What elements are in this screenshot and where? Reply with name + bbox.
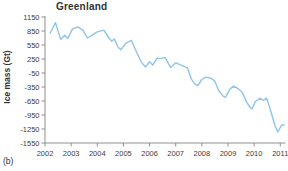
x-tick-label: 2006 — [141, 149, 158, 158]
y-tick-label: -350 — [24, 83, 39, 92]
y-tick-label: -1250 — [20, 125, 39, 134]
panel-caption: (b) — [3, 156, 13, 166]
y-tick-label: -650 — [24, 97, 39, 106]
x-tick-label: 2004 — [89, 149, 106, 158]
ice-mass-chart: 1150850550250-50-350-650-950-1250-155020… — [0, 0, 288, 171]
y-tick-label: 550 — [27, 41, 40, 50]
y-tick-label: 250 — [27, 55, 40, 64]
y-tick-label: -1550 — [20, 139, 39, 148]
y-tick-label: -950 — [24, 111, 39, 120]
x-tick-label: 2009 — [220, 149, 237, 158]
x-tick-label: 2010 — [246, 149, 263, 158]
chart-title: Greenland — [56, 1, 107, 12]
y-tick-label: 850 — [27, 27, 40, 36]
y-tick-label: -50 — [29, 69, 40, 78]
x-tick-label: 2008 — [194, 149, 211, 158]
x-tick-label: 2005 — [115, 149, 132, 158]
x-tick-label: 2003 — [63, 149, 80, 158]
x-tick-label: 2002 — [37, 149, 54, 158]
x-tick-label: 2011 — [272, 149, 288, 158]
x-tick-label: 2007 — [167, 149, 184, 158]
y-axis-label: Ice mass (Gt) — [2, 45, 12, 109]
y-tick-label: 1150 — [23, 13, 39, 22]
greenland-ice-mass-figure: 1150850550250-50-350-650-950-1250-155020… — [0, 0, 288, 171]
ice-mass-line — [50, 23, 284, 132]
